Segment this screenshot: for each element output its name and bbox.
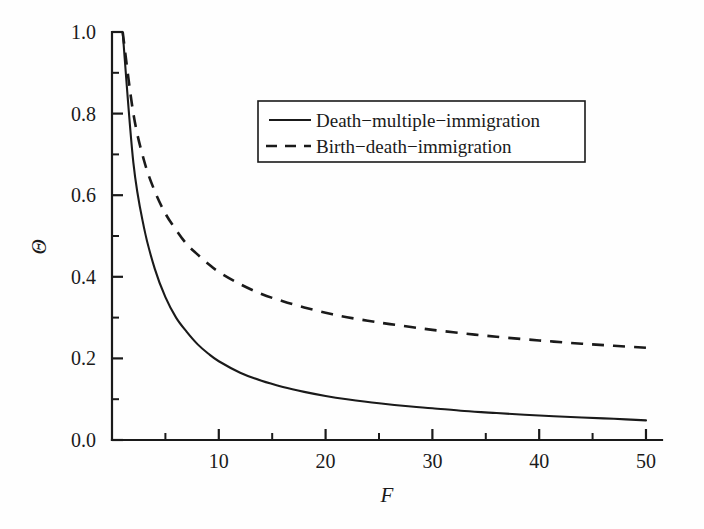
y-axis-title: Θ bbox=[27, 239, 51, 254]
y-tick-label: 0.6 bbox=[71, 184, 96, 206]
x-tick-label: 10 bbox=[209, 450, 229, 472]
y-tick-label: 0.4 bbox=[71, 266, 96, 288]
x-tick-label: 50 bbox=[636, 450, 656, 472]
chart-background bbox=[0, 0, 704, 529]
y-tick-label: 0.2 bbox=[71, 347, 96, 369]
y-tick-label: 0.8 bbox=[71, 103, 96, 125]
y-tick-label: 1.0 bbox=[71, 21, 96, 43]
figure-container: 0.00.20.40.60.81.0 1020304050 Θ F Death−… bbox=[0, 0, 704, 529]
x-tick-label: 30 bbox=[422, 450, 442, 472]
legend-label-0: Death−multiple−immigration bbox=[316, 110, 541, 131]
x-tick-label: 20 bbox=[316, 450, 336, 472]
legend: Death−multiple−immigration Birth−death−i… bbox=[258, 101, 585, 162]
y-tick-label: 0.0 bbox=[71, 429, 96, 451]
x-tick-label: 40 bbox=[529, 450, 549, 472]
legend-label-1: Birth−death−immigration bbox=[316, 136, 512, 157]
line-chart: 0.00.20.40.60.81.0 1020304050 Θ F Death−… bbox=[0, 0, 704, 529]
x-axis-title: F bbox=[380, 483, 394, 507]
